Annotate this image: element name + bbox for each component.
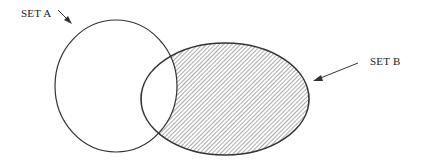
venn-diagram [0,0,423,166]
set-b-label: SET B [370,55,400,67]
shaded-region-b-minus-a [0,0,423,166]
set-a-arrow [58,10,72,24]
set-b-arrow [313,63,358,81]
set-a-label: SET A [21,7,51,19]
